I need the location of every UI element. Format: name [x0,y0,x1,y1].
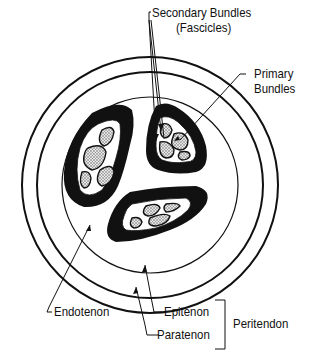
label-peritendon: Peritendon [233,316,288,331]
label-primary: Primary [254,66,293,81]
label-epitenon: Epitenon [164,304,209,319]
paratenon-ring [22,57,278,313]
label-endotenon: Endotenon [54,304,109,319]
tendon-diagram [0,0,309,361]
fascicle-left [64,105,134,207]
label-fascicles: (Fascicles) [176,20,231,35]
label-paratenon: Paratenon [157,327,210,342]
fascicle-bottom [107,186,208,242]
label-secondary-bundles: Secondary Bundles [152,5,251,20]
label-bundles: Bundles [254,81,295,96]
